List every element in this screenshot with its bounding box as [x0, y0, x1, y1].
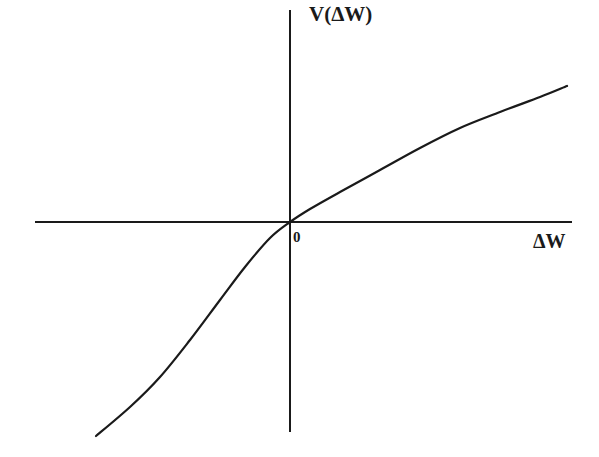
x-axis-label: ΔW — [533, 230, 566, 253]
value-curve — [96, 86, 567, 436]
origin-label: 0 — [293, 229, 301, 246]
y-axis-label: V(ΔW) — [309, 2, 372, 27]
